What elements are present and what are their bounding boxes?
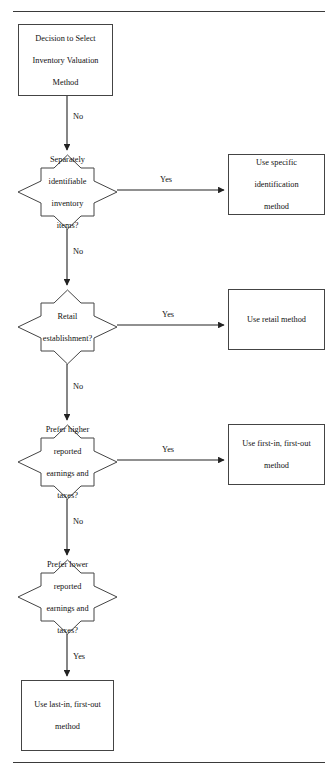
edge-label-decision4-to-outcome4: Yes (73, 652, 85, 662)
outcome3-shape (229, 425, 325, 485)
edge-label-decision3-to-outcome3: Yes (162, 445, 174, 455)
edge-label-decision2-to-decision3: No (73, 382, 83, 392)
edge-label-decision2-to-outcome2: Yes (162, 310, 174, 320)
decision2-shape (18, 290, 117, 364)
edge-label-start-to-decision1: No (73, 112, 83, 122)
outcome2-shape (229, 290, 325, 350)
decision3-shape (18, 425, 117, 499)
decision4-shape (18, 560, 117, 634)
edge-label-decision1-to-decision2: No (73, 247, 83, 257)
edge-label-decision1-to-outcome1: Yes (160, 175, 172, 185)
outcome1-shape (229, 155, 325, 215)
decision1-shape (18, 155, 117, 229)
flowchart-shapes (0, 0, 335, 771)
edge-label-decision3-to-decision4: No (73, 517, 83, 527)
flowchart-canvas: Decision to Select Inventory Valuation M… (0, 0, 335, 771)
outcome4-shape (22, 681, 114, 751)
start-node-shape (19, 25, 113, 96)
